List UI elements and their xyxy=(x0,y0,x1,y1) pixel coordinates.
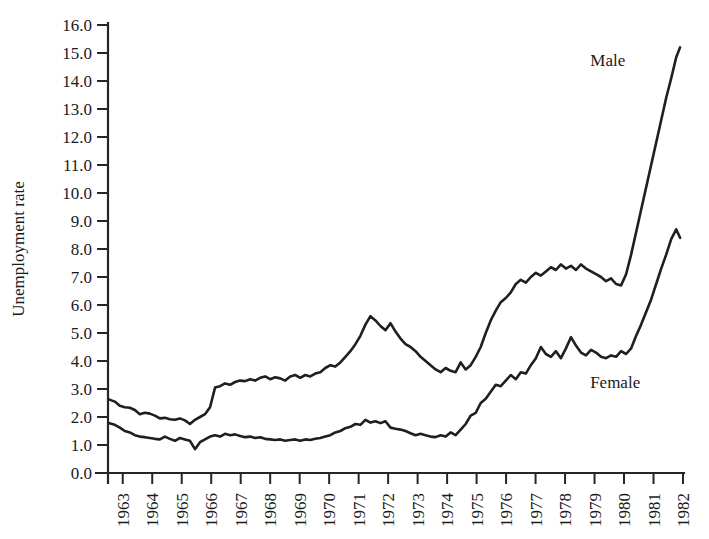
annotation-female: Female xyxy=(590,373,640,392)
y-tick-label: 4.0 xyxy=(71,352,92,371)
y-tick-label: 11.0 xyxy=(63,156,92,175)
y-tick-label: 3.0 xyxy=(71,380,92,399)
x-axis: 1963196419651966196719681969197019711972… xyxy=(96,473,693,527)
y-tick-label: 10.0 xyxy=(62,184,92,203)
x-tick-label: 1971 xyxy=(350,493,369,527)
x-tick-label: 1982 xyxy=(674,493,693,527)
x-tick-label: 1973 xyxy=(409,493,428,527)
y-tick-label: 13.0 xyxy=(62,100,92,119)
x-tick-label: 1978 xyxy=(556,493,575,527)
x-tick-label: 1981 xyxy=(645,493,664,527)
x-tick-label: 1977 xyxy=(527,493,546,528)
y-tick-label: 6.0 xyxy=(71,296,92,315)
x-tick-label: 1979 xyxy=(586,493,605,527)
x-tick-label: 1972 xyxy=(379,493,398,527)
x-tick-label: 1975 xyxy=(468,493,487,527)
series-annotations: MaleFemale xyxy=(590,51,640,392)
series-line-male xyxy=(109,47,680,424)
y-tick-label: 5.0 xyxy=(71,324,92,343)
y-axis-title: Unemployment rate xyxy=(9,181,28,317)
y-tick-label: 0.0 xyxy=(71,464,92,483)
x-tick-label: 1965 xyxy=(173,493,192,527)
y-tick-label: 16.0 xyxy=(62,16,92,35)
y-tick-label: 14.0 xyxy=(62,72,92,91)
x-tick-label: 1968 xyxy=(261,493,280,527)
x-tick-label: 1976 xyxy=(497,493,516,527)
x-tick-label: 1980 xyxy=(615,493,634,527)
x-tick-label: 1970 xyxy=(320,493,339,527)
y-tick-label: 9.0 xyxy=(71,212,92,231)
y-tick-label: 15.0 xyxy=(62,44,92,63)
x-tick-label: 1966 xyxy=(202,493,221,527)
y-tick-label: 7.0 xyxy=(71,268,92,287)
unemployment-rate-chart: 0.01.02.03.04.05.06.07.08.09.010.011.012… xyxy=(0,0,709,539)
chart-svg: 0.01.02.03.04.05.06.07.08.09.010.011.012… xyxy=(0,0,709,539)
annotation-male: Male xyxy=(590,51,625,70)
y-tick-label: 1.0 xyxy=(71,436,92,455)
x-tick-label: 1969 xyxy=(291,493,310,527)
y-tick-label: 8.0 xyxy=(71,240,92,259)
y-tick-label: 2.0 xyxy=(71,408,92,427)
y-axis: 0.01.02.03.04.05.06.07.08.09.010.011.012… xyxy=(62,16,108,483)
x-tick-label: 1963 xyxy=(114,493,133,527)
y-tick-label: 12.0 xyxy=(62,128,92,147)
x-tick-label: 1967 xyxy=(232,493,251,528)
x-tick-label: 1964 xyxy=(143,493,162,528)
series-line-female xyxy=(109,229,680,449)
x-tick-label: 1974 xyxy=(438,493,457,528)
